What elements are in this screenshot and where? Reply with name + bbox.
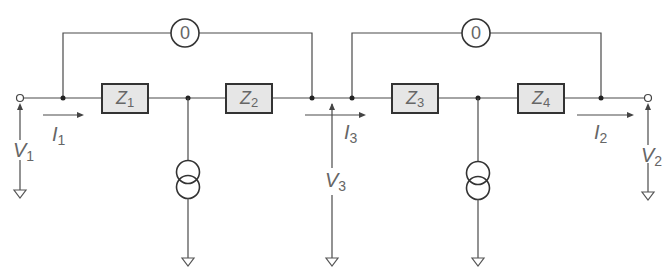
- input-terminal: [17, 95, 24, 102]
- ground-icon: [14, 190, 26, 198]
- ground-icon: [642, 192, 654, 200]
- impedance-z1-label: Z1: [102, 89, 148, 109]
- current-i2-label: I2: [594, 122, 607, 145]
- ground-icon: [182, 258, 194, 266]
- impedance-z3-label: Z3: [392, 89, 438, 109]
- current-i3-arrow: [305, 112, 366, 118]
- current-source-1: [177, 98, 200, 266]
- current-i1-arrow: [43, 112, 84, 118]
- impedance-z2-label: Z2: [226, 89, 272, 109]
- ground-icon: [472, 258, 484, 266]
- circuit-svg: [0, 0, 666, 278]
- current-i2-arrow: [577, 112, 634, 118]
- output-terminal: [645, 95, 652, 102]
- impedance-z4-label: Z4: [518, 89, 564, 109]
- current-i1-label: I1: [52, 124, 65, 147]
- voltage-v3-label: V3: [325, 170, 346, 193]
- voltage-v2-label: V2: [641, 145, 662, 168]
- circuit-diagram: 0 0 Z1 Z2 Z3 Z4 I1 I3 I2 V1 V3 V2: [0, 0, 666, 278]
- nullator-right-label: 0: [462, 24, 490, 42]
- nullator-left-label: 0: [171, 24, 199, 42]
- current-source-2: [467, 98, 490, 266]
- ground-icon: [326, 258, 338, 266]
- current-i3-label: I3: [344, 122, 357, 145]
- voltage-v1-label: V1: [13, 140, 34, 163]
